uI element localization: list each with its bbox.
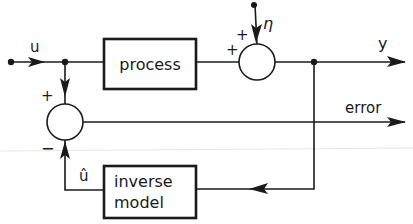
scan-artifact-line — [0, 148, 413, 151]
estimate-sum-sign: − — [41, 139, 54, 158]
error-summing-junction — [47, 104, 83, 140]
inverse-model-label-line1: inverse — [114, 172, 173, 191]
inverse-model-label-line2: model — [114, 193, 164, 212]
process-label: process — [119, 55, 180, 74]
block-diagram: u process + η + y inverse model û − + er… — [0, 0, 413, 224]
noise-terminal-dot — [251, 2, 257, 8]
input-branch-sum-sign: + — [41, 87, 54, 105]
noise-sum-sign: + — [236, 26, 249, 44]
feedback-line — [196, 62, 314, 189]
estimate-label-uhat: û — [79, 167, 89, 185]
inverse-model-block: inverse model — [104, 166, 196, 218]
error-label: error — [345, 99, 382, 117]
input-label-u: u — [30, 38, 40, 56]
output-label-y: y — [378, 34, 387, 53]
process-block: process — [104, 39, 196, 89]
noise-label-eta: η — [263, 14, 273, 33]
output-summing-junction — [239, 44, 275, 80]
